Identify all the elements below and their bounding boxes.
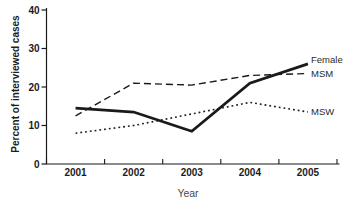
series-line-female (76, 64, 308, 131)
x-axis-title: Year (177, 187, 199, 199)
x-tick-label: 2003 (181, 167, 204, 178)
axis-layer (42, 8, 340, 164)
series-label-msw: MSW (311, 106, 334, 117)
x-tick-label: 2001 (64, 167, 87, 178)
label-layer: 01020304020012002200320042005FemaleMSMMS… (28, 5, 342, 179)
x-tick-label: 2005 (297, 167, 320, 178)
series-label-female: Female (311, 54, 343, 65)
x-tick-label: 2002 (123, 167, 146, 178)
y-tick-label: 0 (34, 159, 40, 170)
y-axis-title: Percent of interviewed cases (10, 15, 21, 153)
series-line-msw (76, 102, 308, 133)
y-tick-label: 20 (28, 82, 40, 93)
y-tick-label: 40 (28, 5, 40, 16)
y-tick-label: 10 (28, 120, 40, 131)
series-label-msm: MSM (311, 68, 333, 79)
line-chart: 01020304020012002200320042005FemaleMSMMS… (0, 0, 355, 213)
y-tick-label: 30 (28, 43, 40, 54)
chart-container: 01020304020012002200320042005FemaleMSMMS… (0, 0, 355, 213)
series-layer (76, 64, 308, 133)
x-tick-label: 2004 (239, 167, 262, 178)
